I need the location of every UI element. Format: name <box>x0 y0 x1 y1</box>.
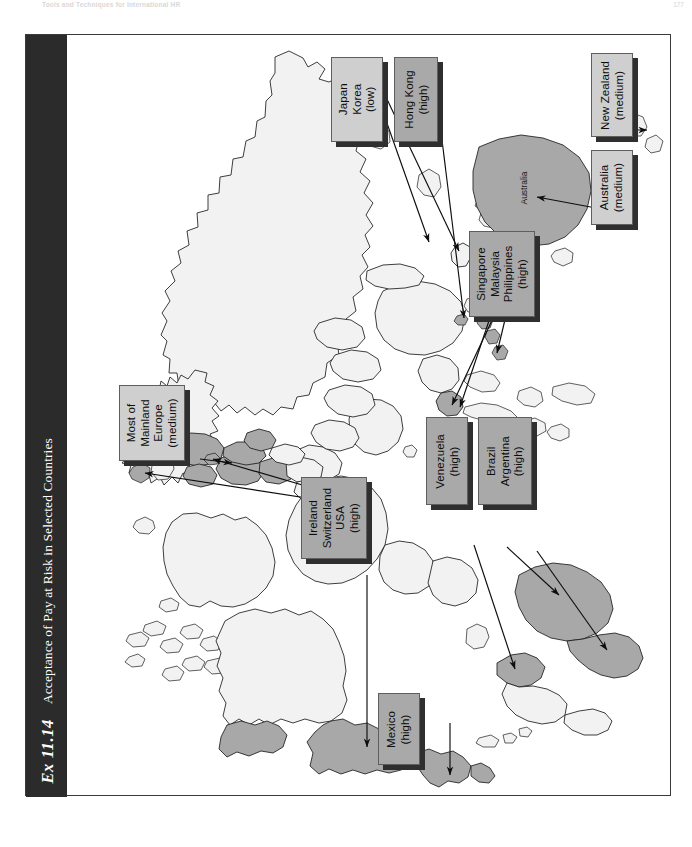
callout-line: New Zealand <box>599 61 613 130</box>
callout-line: Hong Kong <box>403 70 417 128</box>
callout-line: Mainland <box>139 398 153 447</box>
callout-mexico[interactable]: Mexico (high) <box>378 693 420 765</box>
callout-line: Philippines <box>502 246 516 303</box>
callout-line: Singapore <box>475 246 489 303</box>
exhibit-title-bar: Ex 11.14 Acceptance of Pay at Risk in Se… <box>26 35 67 797</box>
callout-text: Australia (medium) <box>599 163 626 212</box>
callout-new-zealand[interactable]: New Zealand (medium) <box>591 53 633 137</box>
callout-line: Malaysia <box>488 246 502 303</box>
callout-australia[interactable]: Australia (medium) <box>591 150 633 225</box>
callout-box[interactable]: New Zealand (medium) <box>591 53 633 137</box>
page-number: 177 <box>673 1 684 8</box>
callout-line: Europe <box>152 398 166 447</box>
callout-line: Australia <box>599 163 613 212</box>
running-head-title: Tools and Techniques for International H… <box>42 1 180 8</box>
callout-singapore-malaysia-philippines[interactable]: Singapore Malaysia Philippines (high) <box>469 231 535 317</box>
callout-box[interactable]: Hong Kong (high) <box>394 57 438 142</box>
callout-box[interactable]: Ireland Switzerland USA (high) <box>301 477 367 559</box>
callout-line: (high) <box>447 434 461 489</box>
callout-line: (high) <box>416 70 430 128</box>
callout-line: Switzerland <box>320 488 334 549</box>
callout-line: (high) <box>399 710 413 747</box>
callout-line: (medium) <box>612 163 626 212</box>
callout-line: Japan <box>337 84 351 116</box>
callout-japan-korea[interactable]: Japan Korea (low) <box>331 57 383 142</box>
callout-hong-kong[interactable]: Hong Kong (high) <box>394 57 438 142</box>
callout-text: Brazil Argentina (high) <box>485 436 526 486</box>
callout-line: (high) <box>347 488 361 549</box>
callout-text: Ireland Switzerland USA (high) <box>307 488 361 549</box>
map-label-australia: Australia <box>519 171 529 204</box>
callout-line: (medium) <box>612 61 626 130</box>
callout-line: Brazil <box>485 436 499 486</box>
callout-text: Mexico (high) <box>386 710 413 747</box>
callout-line: (high) <box>515 246 529 303</box>
callout-line: (low) <box>364 84 378 116</box>
callout-text: Venezuela (high) <box>434 434 461 489</box>
callout-ireland-switzerland-usa[interactable]: Ireland Switzerland USA (high) <box>301 477 367 559</box>
callout-box[interactable]: Japan Korea (low) <box>331 57 383 142</box>
callout-line: Ireland <box>307 488 321 549</box>
callout-box[interactable]: Singapore Malaysia Philippines (high) <box>469 231 535 317</box>
callout-text: Singapore Malaysia Philippines (high) <box>475 246 529 303</box>
callout-line: Argentina <box>498 436 512 486</box>
callout-box[interactable]: Venezuela (high) <box>426 417 468 505</box>
callout-line: Most of <box>125 398 139 447</box>
callout-brazil-argentina[interactable]: Brazil Argentina (high) <box>478 417 532 505</box>
leader-venezuela <box>474 545 515 669</box>
callout-mainland-europe[interactable]: Most of Mainland Europe (medium) <box>119 385 185 461</box>
callout-text: Japan Korea (low) <box>337 84 378 116</box>
callout-box[interactable]: Mexico (high) <box>378 693 420 765</box>
exhibit-frame: Ex 11.14 Acceptance of Pay at Risk in Se… <box>25 34 671 796</box>
callout-text: New Zealand (medium) <box>599 61 626 130</box>
callout-line: Venezuela <box>434 434 448 489</box>
callout-box[interactable]: Australia (medium) <box>591 150 633 225</box>
callout-box[interactable]: Most of Mainland Europe (medium) <box>119 385 185 461</box>
callout-line: Mexico <box>386 710 400 747</box>
callout-line: (medium) <box>166 398 180 447</box>
exhibit-title: Acceptance of Pay at Risk in Selected Co… <box>39 438 55 704</box>
callout-line: Korea <box>350 84 364 116</box>
callout-text: Hong Kong (high) <box>403 70 430 128</box>
callout-box[interactable]: Brazil Argentina (high) <box>478 417 532 505</box>
exhibit-number: Ex 11.14 <box>37 719 57 783</box>
callout-line: USA <box>334 488 348 549</box>
page-running-head: Tools and Techniques for International H… <box>0 0 692 16</box>
callout-venezuela[interactable]: Venezuela (high) <box>426 417 468 505</box>
callout-line: (high) <box>512 436 526 486</box>
callout-text: Most of Mainland Europe (medium) <box>125 398 179 447</box>
